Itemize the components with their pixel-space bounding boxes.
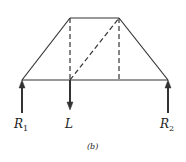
truss-diagram: R1 L R2 (b) xyxy=(0,0,186,162)
l-label: L xyxy=(64,117,73,131)
r1-label: R1 xyxy=(13,117,28,133)
caption: (b) xyxy=(87,142,98,151)
r2-arrowhead-icon xyxy=(165,80,171,88)
r1-arrowhead-icon xyxy=(19,80,25,88)
l-arrowhead-icon xyxy=(67,102,73,110)
diagonal-dashed xyxy=(70,18,119,80)
right-incline xyxy=(119,18,168,80)
r2-label: R2 xyxy=(159,117,174,133)
left-incline xyxy=(22,18,70,80)
